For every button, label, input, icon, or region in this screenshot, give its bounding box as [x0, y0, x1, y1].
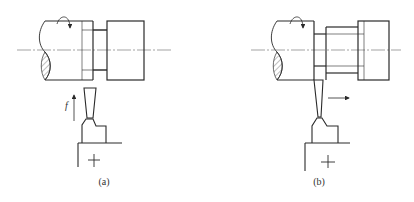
workpiece-end-block-a [107, 21, 144, 80]
panel-a [17, 17, 172, 167]
rotation-arrow-icon-b [290, 17, 303, 28]
cutting-tool-a [82, 88, 106, 143]
workpiece-shaft-b [271, 21, 314, 80]
hatch-section-a [41, 52, 50, 80]
hatch-section-b [273, 52, 282, 80]
cutting-tool-b [312, 80, 338, 143]
workpiece-end-block-b [358, 21, 389, 80]
panel-b [251, 17, 401, 171]
caption-a: (a) [98, 176, 109, 187]
caption-b: (b) [313, 176, 325, 187]
rotation-arrow-icon-a [57, 17, 70, 28]
tool-holder-a [78, 143, 122, 167]
feed-label-a: f [65, 100, 68, 111]
tool-holder-b [305, 143, 350, 171]
diagram-canvas [0, 0, 414, 202]
